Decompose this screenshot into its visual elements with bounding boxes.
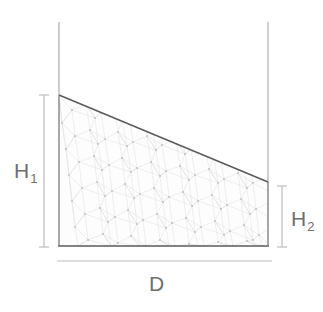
height-right-symbol: H xyxy=(291,207,306,230)
width-symbol: D xyxy=(149,272,164,295)
height-right-label: H2 xyxy=(291,208,313,229)
height-left-subscript: 1 xyxy=(30,171,37,186)
width-label: D xyxy=(149,273,164,294)
liquid-domain-fill xyxy=(59,95,268,246)
diagram-canvas: H1 H2 D xyxy=(0,0,323,312)
height-right-subscript: 2 xyxy=(307,219,314,234)
height-left-symbol: H xyxy=(14,159,29,182)
height-left-label: H1 xyxy=(14,160,36,181)
diagram-svg xyxy=(0,0,323,312)
